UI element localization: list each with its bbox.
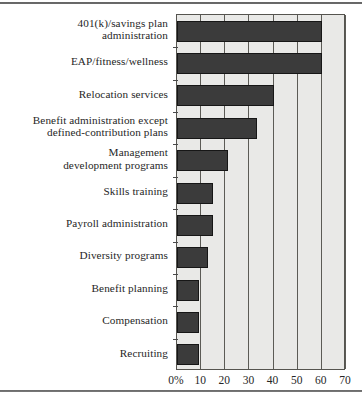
- plot-area: [176, 14, 345, 370]
- x-axis-tick-labels: 0%10203040506070: [0, 370, 362, 392]
- category-tickmark: [173, 112, 178, 113]
- x-tick-label: 10: [194, 374, 206, 387]
- category-tickmark: [173, 209, 178, 210]
- category-label-line: Benefit administration except: [0, 114, 168, 127]
- category-label-line: Diversity programs: [0, 249, 168, 262]
- category-label: Benefit planning: [0, 282, 168, 295]
- category-label-line: Compensation: [0, 314, 168, 327]
- category-tickmark: [173, 306, 178, 307]
- category-tickmark: [173, 47, 178, 48]
- category-label-line: Management: [0, 146, 168, 159]
- category-tickmark: [173, 144, 178, 145]
- x-tick-label: 40: [267, 374, 279, 387]
- category-label: Compensation: [0, 314, 168, 327]
- category-label: Diversity programs: [0, 249, 168, 262]
- category-tickmarks: [177, 15, 344, 369]
- category-label-line: development programs: [0, 159, 168, 172]
- x-tick-label: 0%: [168, 374, 183, 387]
- bar-chart-figure: 401(k)/savings planadministrationEAP/fit…: [0, 0, 362, 405]
- category-tickmark: [173, 80, 178, 81]
- category-tickmark: [173, 274, 178, 275]
- category-label-line: Benefit planning: [0, 282, 168, 295]
- category-tickmark: [173, 339, 178, 340]
- page-bottom-rule: [0, 390, 362, 392]
- category-label-line: Skills training: [0, 185, 168, 198]
- category-tickmark: [173, 177, 178, 178]
- x-tick-label: 70: [339, 374, 351, 387]
- page-top-rule: [0, 2, 362, 4]
- category-label-line: Payroll administration: [0, 217, 168, 230]
- category-label-line: defined-contribution plans: [0, 126, 168, 139]
- category-label: EAP/fitness/wellness: [0, 55, 168, 68]
- gridline-70: [345, 15, 346, 369]
- category-label: Relocation services: [0, 88, 168, 101]
- x-tick-label: 60: [315, 374, 327, 387]
- category-label: Payroll administration: [0, 217, 168, 230]
- x-tick-label: 30: [243, 374, 255, 387]
- category-label-line: Recruiting: [0, 347, 168, 360]
- category-label: Recruiting: [0, 347, 168, 360]
- category-tickmark: [173, 242, 178, 243]
- category-label: Skills training: [0, 185, 168, 198]
- x-tick-label: 20: [219, 374, 231, 387]
- category-label-line: 401(k)/savings plan: [0, 17, 168, 30]
- category-label: Managementdevelopment programs: [0, 146, 168, 171]
- category-label-line: EAP/fitness/wellness: [0, 55, 168, 68]
- category-label-line: Relocation services: [0, 88, 168, 101]
- category-label-line: administration: [0, 29, 168, 42]
- category-label: Benefit administration exceptdefined-con…: [0, 114, 168, 139]
- x-tick-label: 50: [291, 374, 303, 387]
- category-axis-labels: 401(k)/savings planadministrationEAP/fit…: [0, 14, 172, 370]
- category-label: 401(k)/savings planadministration: [0, 17, 168, 42]
